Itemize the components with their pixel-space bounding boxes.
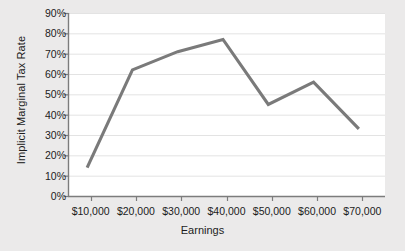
x-axis-tick-label: $20,000 [117,205,155,217]
x-axis-tick-label: $50,000 [253,205,291,217]
x-axis-tick-label: $30,000 [162,205,200,217]
x-axis-title: Earnings [0,224,405,236]
x-axis-tick-labels: $10,000$20,000$30,000$40,000$50,000$60,0… [0,0,405,251]
chart-container: Implicit Marginal Tax Rate 0%10%20%30%40… [0,0,405,251]
x-axis-tick-label: $10,000 [72,205,110,217]
x-axis-tick-label: $70,000 [343,205,381,217]
x-axis-tick-label: $40,000 [208,205,246,217]
x-axis-tick-label: $60,000 [298,205,336,217]
